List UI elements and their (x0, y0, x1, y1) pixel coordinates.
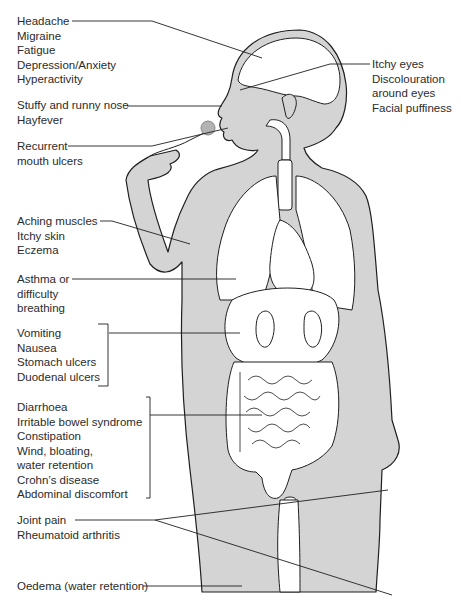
label-constipation: Constipation (17, 429, 142, 444)
label-joint-pain: Joint pain (17, 513, 120, 528)
label-itchy-skin: Itchy skin (17, 229, 98, 244)
label-aching-muscles: Aching muscles (17, 214, 98, 229)
label-hyperactivity: Hyperactivity (17, 72, 116, 87)
label-depression-anxiety: Depression/Anxiety (17, 58, 116, 73)
label-discolouration: Discolouration (372, 72, 452, 87)
lung-symptoms: Asthma or difficulty breathing (17, 272, 69, 316)
joint-symptoms: Joint pain Rheumatoid arthritis (17, 513, 120, 542)
leg-symptoms: Oedema (water retention) (17, 579, 148, 594)
label-crohns: Crohn’s disease (17, 473, 142, 488)
label-stomach-ulcers: Stomach ulcers (17, 355, 100, 370)
kidney-left (256, 311, 274, 347)
label-itchy-eyes: Itchy eyes (372, 57, 452, 72)
label-diarrhoea: Diarrhoea (17, 400, 142, 415)
stomach-symptoms: Vomiting Nausea Stomach ulcers Duodenal … (17, 326, 100, 384)
head-symptoms: Headache Migraine Fatigue Depression/Anx… (17, 14, 116, 87)
label-difficulty: difficulty (17, 287, 69, 302)
label-facial-puffiness: Facial puffiness (372, 101, 452, 116)
label-eczema: Eczema (17, 243, 98, 258)
label-rheumatoid-arthritis: Rheumatoid arthritis (17, 528, 120, 543)
label-vomiting: Vomiting (17, 326, 100, 341)
bowel-symptoms: Diarrhoea Irritable bowel syndrome Const… (17, 400, 142, 502)
label-hayfever: Hayfever (17, 113, 129, 128)
label-oedema: Oedema (water retention) (17, 579, 148, 594)
mouth-symptoms: Recurrent mouth ulcers (17, 139, 83, 168)
skin-symptoms: Aching muscles Itchy skin Eczema (17, 214, 98, 258)
eye-symptoms: Itchy eyes Discolouration around eyes Fa… (372, 57, 452, 115)
trachea (278, 160, 292, 210)
leg-gap (278, 500, 300, 592)
label-migraine: Migraine (17, 29, 116, 44)
label-asthma: Asthma or (17, 272, 69, 287)
label-recurrent: Recurrent (17, 139, 83, 154)
label-around-eyes: around eyes (372, 86, 452, 101)
label-nausea: Nausea (17, 341, 100, 356)
label-mouth-ulcers: mouth ulcers (17, 154, 83, 169)
label-breathing: breathing (17, 301, 69, 316)
label-headache: Headache (17, 14, 116, 29)
kidney-right (304, 311, 322, 347)
label-wind-bloating: Wind, bloating, (17, 444, 142, 459)
label-stuffy-nose: Stuffy and runny nose (17, 98, 129, 113)
nose-symptoms: Stuffy and runny nose Hayfever (17, 98, 129, 127)
label-water-retention: water retention (17, 458, 142, 473)
label-duodenal-ulcers: Duodenal ulcers (17, 370, 100, 385)
label-fatigue: Fatigue (17, 43, 116, 58)
label-abdominal-discomfort: Abdominal discomfort (17, 487, 142, 502)
label-ibs: Irritable bowel syndrome (17, 415, 142, 430)
